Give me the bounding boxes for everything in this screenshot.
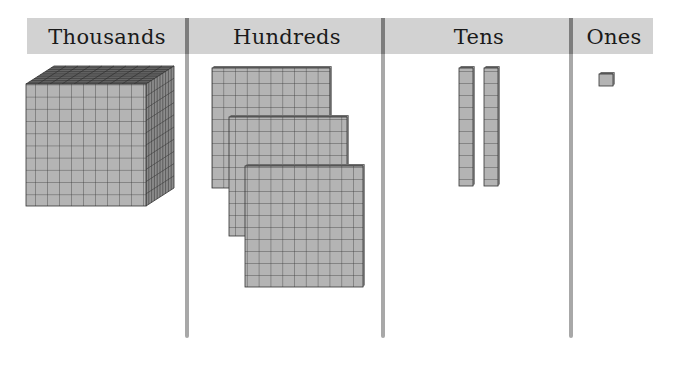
ten-rod-block-2	[484, 66, 500, 186]
hundred-flat-block-3	[245, 164, 365, 287]
thousand-cube-block	[26, 66, 174, 206]
ten-rod-block-1	[459, 66, 475, 186]
base-ten-blocks	[0, 0, 679, 367]
one-unit-block	[599, 72, 615, 86]
